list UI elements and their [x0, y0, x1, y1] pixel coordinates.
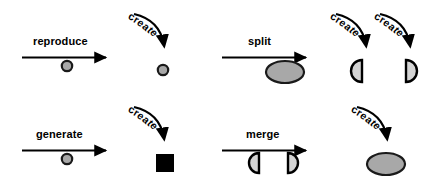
shape-half-ellipse-left-split-output	[351, 60, 362, 82]
shape-half-ellipse-right-merge-input	[288, 153, 298, 173]
create-label-merge: create	[350, 103, 382, 131]
shape-black-square-generate-output	[157, 155, 173, 171]
shape-gray-ellipse-split-input	[266, 61, 304, 83]
shape-half-ellipse-left-merge-input	[249, 153, 259, 173]
diagram-canvas: reproduce split generate merge create cr…	[0, 0, 428, 184]
operation-label-merge: merge	[246, 128, 280, 140]
create-label-split-left: create	[329, 10, 361, 38]
operation-label-split: split	[248, 35, 271, 47]
shape-gray-circle-reproduce-output	[158, 65, 168, 75]
operation-label-reproduce: reproduce	[33, 35, 88, 47]
shape-gray-circle-generate-input	[62, 154, 72, 164]
diagram-vector-layer	[0, 0, 428, 184]
operation-label-generate: generate	[36, 128, 83, 140]
shape-gray-ellipse-merge-output	[367, 153, 405, 175]
shape-half-ellipse-right-split-output	[406, 60, 417, 82]
create-label-generate: create	[127, 103, 159, 131]
shape-gray-circle-reproduce-input	[62, 61, 72, 71]
create-label-reproduce: create	[127, 10, 159, 38]
create-label-split-right: create	[373, 10, 405, 38]
